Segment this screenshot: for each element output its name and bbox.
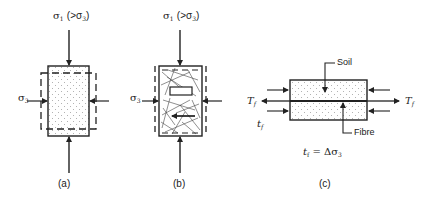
fibre-reinforced-soil-diagram: σ1 (>σ3) σ3 (a) σ1 (>σ3) σ3 (b) Soil Fib… [0,0,426,201]
left-tension-label: Tf [247,96,256,107]
diagram-canvas [0,0,426,201]
panel-a-major-stress-label: σ1 (>σ3) [53,11,89,22]
panel-b-major-stress-label: σ1 (>σ3) [163,11,199,22]
panel-a-unreinforced-soil [27,30,109,173]
soil-label: Soil [337,58,352,67]
panel-c-fibre-element [262,63,399,133]
fibre-label: Fibre [354,128,375,137]
panel-c-caption: (c) [319,179,331,189]
soil-sample [48,66,89,136]
panel-b-fibre-reinforced-soil [142,30,222,173]
shear-stress-label: tf [257,119,263,130]
panel-b-caption: (b) [173,179,185,189]
panel-a-caption: (a) [58,179,70,189]
right-tension-label: Tf [405,96,414,107]
fibre-element-box [170,87,192,95]
panel-b-confining-stress-label: σ3 [130,93,141,104]
shear-equation: tf = Δσ3 [303,147,342,158]
soil-element [290,80,367,120]
panel-a-confining-stress-label: σ3 [18,93,29,104]
